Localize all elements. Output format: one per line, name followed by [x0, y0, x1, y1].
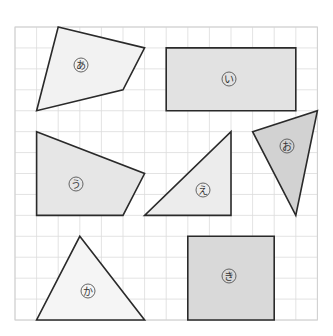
label-text: あ	[76, 60, 86, 71]
shape-label-ki: き	[222, 269, 236, 283]
label-text: お	[282, 141, 292, 152]
shapes-on-grid-figure: あいうえおかき	[0, 0, 333, 336]
shape-a	[37, 27, 145, 111]
label-text: か	[83, 286, 93, 297]
shape-label-a: あ	[74, 58, 88, 72]
label-text: う	[71, 179, 81, 190]
shape-label-i: い	[222, 72, 236, 86]
shape-label-u: う	[69, 177, 83, 191]
shape-label-o: お	[280, 139, 294, 153]
label-text: い	[224, 74, 234, 85]
label-text: き	[224, 271, 234, 282]
shape-o	[253, 111, 318, 216]
shape-u	[37, 132, 145, 216]
label-text: え	[198, 185, 208, 196]
shape-label-e: え	[196, 183, 210, 197]
shape-label-ka: か	[81, 284, 95, 298]
